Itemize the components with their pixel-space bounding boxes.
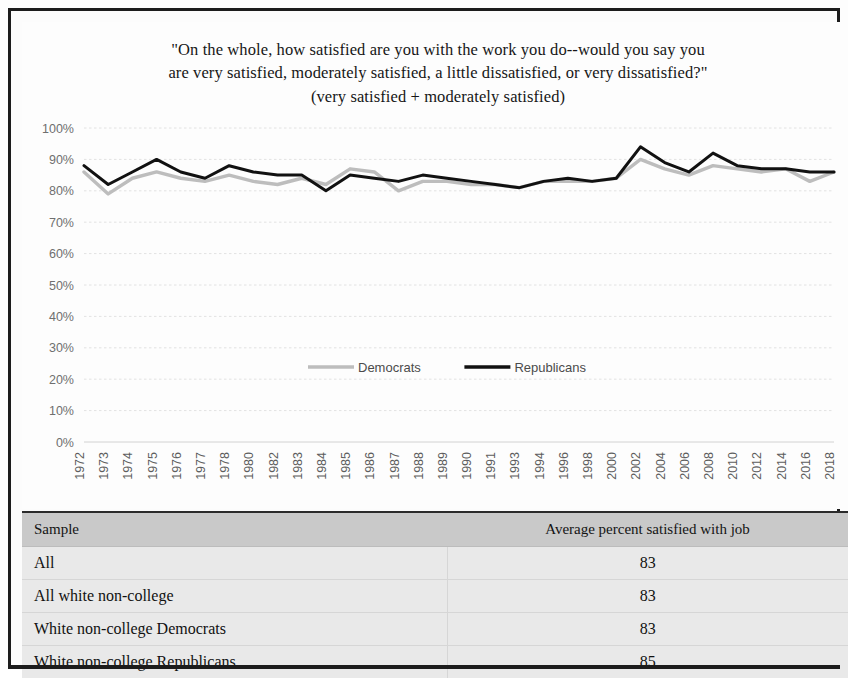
- y-axis-tick-labels: 0%10%20%30%40%50%60%70%80%90%100%: [42, 122, 74, 450]
- chart-panel: "On the whole, how satisfied are you wit…: [22, 22, 848, 509]
- x-axis-tick-labels: 1972197319741975197619771978198019821983…: [73, 452, 837, 480]
- y-tick-label: 70%: [49, 216, 74, 230]
- x-tick-label: 1985: [339, 452, 353, 480]
- chart-legend: DemocratsRepublicans: [308, 360, 586, 375]
- cell-average-percent: 83: [447, 612, 848, 645]
- line-chart-svg: 0%10%20%30%40%50%60%70%80%90%100% 197219…: [22, 118, 848, 508]
- x-tick-label: 1982: [267, 452, 281, 480]
- y-tick-label: 90%: [49, 153, 74, 167]
- y-tick-label: 40%: [49, 310, 74, 324]
- x-tick-label: 2018: [823, 452, 837, 480]
- y-tick-label: 100%: [42, 122, 74, 136]
- summary-table-panel: Sample Average percent satisfied with jo…: [22, 511, 848, 678]
- x-tick-label: 2004: [654, 452, 668, 480]
- y-tick-label: 80%: [49, 184, 74, 198]
- x-tick-label: 2016: [799, 452, 813, 480]
- figure-bottom-rule: [8, 665, 840, 669]
- x-tick-label: 1998: [581, 452, 595, 480]
- y-tick-label: 20%: [49, 373, 74, 387]
- x-tick-label: 1975: [146, 452, 160, 480]
- x-tick-label: 1984: [315, 452, 329, 480]
- cell-sample: All white non-college: [22, 579, 447, 612]
- x-tick-label: 2002: [629, 452, 643, 480]
- cell-average-percent: 83: [447, 579, 848, 612]
- summary-table: Sample Average percent satisfied with jo…: [22, 511, 848, 678]
- cell-sample: All: [22, 546, 447, 579]
- x-tick-label: 2000: [605, 452, 619, 480]
- y-tick-label: 0%: [56, 436, 74, 450]
- x-tick-label: 1974: [121, 452, 135, 480]
- table-row: White non-college Republicans85: [22, 645, 848, 678]
- x-tick-label: 1996: [557, 452, 571, 480]
- series-lines-group: [84, 147, 834, 194]
- chart-title-line-1: "On the whole, how satisfied are you wit…: [68, 38, 808, 61]
- x-tick-label: 1993: [508, 452, 522, 480]
- cell-sample: White non-college Democrats: [22, 612, 447, 645]
- chart-title: "On the whole, how satisfied are you wit…: [68, 38, 808, 108]
- cell-average-percent: 83: [447, 546, 848, 579]
- x-tick-label: 2006: [678, 452, 692, 480]
- figure-frame: "On the whole, how satisfied are you wit…: [8, 8, 840, 666]
- cell-average-percent: 85: [447, 645, 848, 678]
- x-tick-label: 1976: [170, 452, 184, 480]
- legend-label-democrats: Democrats: [358, 360, 421, 375]
- x-tick-label: 1978: [218, 452, 232, 480]
- x-tick-label: 1983: [291, 452, 305, 480]
- legend-label-republicans: Republicans: [514, 360, 586, 375]
- x-tick-label: 1977: [194, 452, 208, 480]
- x-tick-label: 1980: [242, 452, 256, 480]
- x-tick-label: 1994: [533, 452, 547, 480]
- x-tick-label: 1988: [412, 452, 426, 480]
- x-tick-label: 1972: [73, 452, 87, 480]
- table-row: All83: [22, 546, 848, 579]
- x-tick-label: 2010: [726, 452, 740, 480]
- table-row: White non-college Democrats83: [22, 612, 848, 645]
- plot-area: 0%10%20%30%40%50%60%70%80%90%100% 197219…: [22, 118, 848, 508]
- table-row: All white non-college83: [22, 579, 848, 612]
- y-tick-label: 30%: [49, 341, 74, 355]
- x-tick-label: 1987: [388, 452, 402, 480]
- x-tick-label: 1989: [436, 452, 450, 480]
- x-tick-label: 1973: [97, 452, 111, 480]
- y-tick-label: 50%: [49, 279, 74, 293]
- chart-title-line-3: (very satisfied + moderately satisfied): [68, 85, 808, 108]
- table-header-row: Sample Average percent satisfied with jo…: [22, 512, 848, 546]
- x-tick-label: 2012: [750, 452, 764, 480]
- column-header-sample: Sample: [22, 512, 447, 546]
- x-tick-label: 1986: [363, 452, 377, 480]
- cell-sample: White non-college Republicans: [22, 645, 447, 678]
- table-body: All83All white non-college83White non-co…: [22, 546, 848, 678]
- y-tick-label: 60%: [49, 247, 74, 261]
- y-tick-label: 10%: [49, 404, 74, 418]
- x-tick-label: 1990: [460, 452, 474, 480]
- x-tick-label: 1991: [484, 452, 498, 480]
- chart-title-line-2: are very satisfied, moderately satisfied…: [68, 61, 808, 84]
- x-tick-label: 2008: [702, 452, 716, 480]
- column-header-average-percent: Average percent satisfied with job: [447, 512, 848, 546]
- x-tick-label: 2014: [775, 452, 789, 480]
